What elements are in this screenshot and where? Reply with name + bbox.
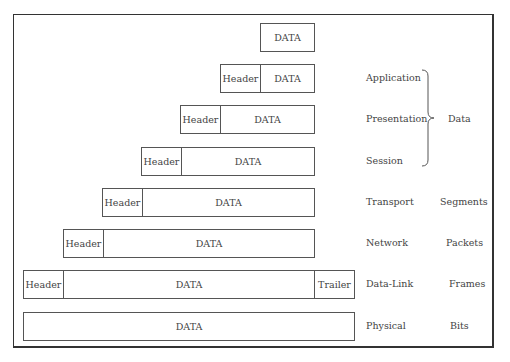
trailer-box-datalink: Trailer <box>314 270 355 299</box>
header-box-datalink: Header <box>23 270 64 299</box>
layer-label-transport: Transport <box>366 196 414 207</box>
curly-brace-icon <box>420 68 440 168</box>
layer-label-presentation: Presentation <box>366 113 427 124</box>
pdu-label-physical: Bits <box>450 320 469 331</box>
layer-label-datalink: Data-Link <box>366 278 413 289</box>
data-box-datalink: DATA <box>63 270 315 299</box>
header-box-session: Header <box>141 147 182 176</box>
data-box-presentation: DATA <box>220 105 315 134</box>
header-box-presentation: Header <box>180 105 221 134</box>
data-box-transport: DATA <box>142 188 315 217</box>
header-box-application: Header <box>220 64 261 93</box>
data-box-network: DATA <box>103 229 315 258</box>
pdu-label-transport: Segments <box>440 196 488 207</box>
data-box-physical: DATA <box>23 312 355 341</box>
layer-label-network: Network <box>366 237 408 248</box>
brace-label-data: Data <box>448 113 471 124</box>
layer-label-physical: Physical <box>366 320 406 331</box>
pdu-label-network: Packets <box>446 237 483 248</box>
header-box-transport: Header <box>102 188 143 217</box>
pdu-label-datalink: Frames <box>449 278 485 289</box>
data-box-session: DATA <box>181 147 315 176</box>
data-box-application: DATA <box>260 64 315 93</box>
layer-label-application: Application <box>366 72 421 83</box>
header-box-network: Header <box>63 229 104 258</box>
data-box-top: DATA <box>260 23 315 52</box>
layer-label-session: Session <box>366 155 403 166</box>
